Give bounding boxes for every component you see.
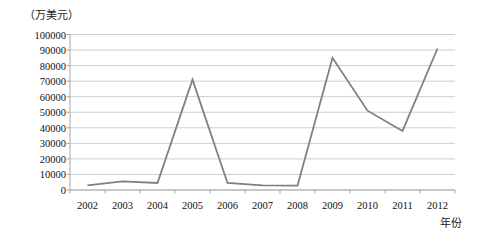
- x-axis-tick-label: 2004: [147, 200, 168, 211]
- data-series-line: [88, 49, 438, 186]
- gridlines: [70, 35, 455, 191]
- x-axis-tick-label: 2005: [182, 200, 203, 211]
- x-axis-tick-label: 2006: [217, 200, 238, 211]
- y-axis-ticks: [67, 35, 71, 191]
- x-axis-tick-label: 2003: [112, 200, 133, 211]
- x-axis-ticks: [70, 190, 455, 194]
- x-axis-title: 年份: [440, 214, 462, 230]
- x-axis-tick-label: 2009: [322, 200, 343, 211]
- series-line: [88, 49, 438, 186]
- x-axis-tick-label: 2007: [252, 200, 273, 211]
- x-axis-tick-label: 2002: [77, 200, 98, 211]
- x-axis-tick-label: 2011: [392, 200, 413, 211]
- x-axis-tick-label: 2012: [427, 200, 448, 211]
- x-axis-tick-label: 2010: [357, 200, 378, 211]
- x-axis-tick-label: 2008: [287, 200, 308, 211]
- chart-container: （万美元） 0100002000030000400005000060000700…: [0, 0, 480, 235]
